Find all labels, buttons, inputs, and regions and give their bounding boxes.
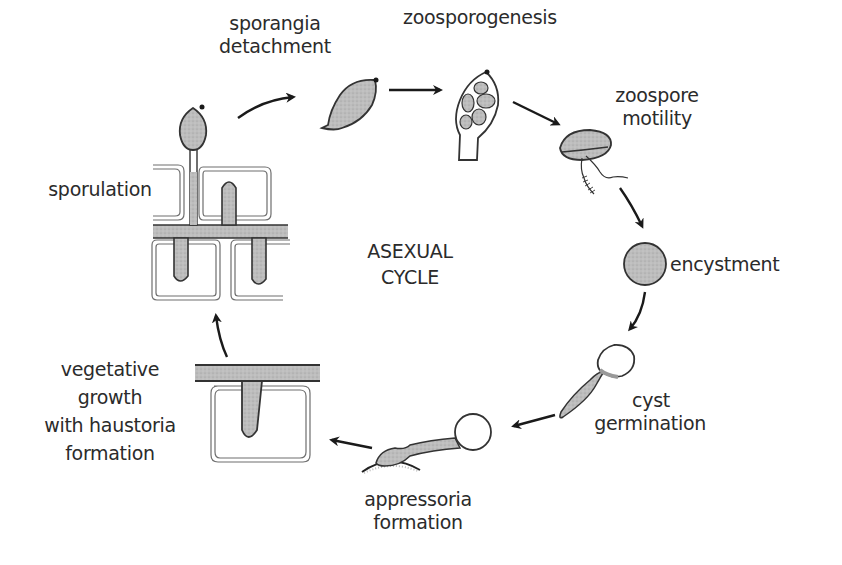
zoosporogenesis-illustration bbox=[456, 70, 498, 161]
center-title-line: ASEXUAL bbox=[340, 238, 480, 264]
label-encystment: encystment bbox=[670, 253, 810, 276]
label-zoospore-motility: zoospore motility bbox=[602, 84, 712, 130]
label-line: zoospore bbox=[602, 84, 712, 107]
center-title-asexual-cycle: ASEXUAL CYCLE bbox=[340, 238, 480, 290]
arrow-germination-to-appressoria bbox=[514, 415, 555, 426]
haustorium-illustration bbox=[195, 365, 320, 462]
label-sporangia-detachment: sporangia detachment bbox=[210, 12, 340, 58]
label-sporulation: sporulation bbox=[30, 178, 170, 201]
label-cyst-germination: cyst germination bbox=[566, 389, 706, 435]
detached-sporangium-illustration bbox=[322, 78, 379, 130]
label-line: sporangia bbox=[210, 12, 340, 35]
appressorium-illustration bbox=[362, 414, 491, 473]
arrow-encystment-to-germination bbox=[630, 292, 645, 329]
label-line: with haustoria bbox=[25, 411, 195, 439]
label-line: cyst bbox=[566, 389, 706, 412]
label-line: motility bbox=[602, 107, 712, 130]
label-line: formation bbox=[25, 439, 195, 467]
label-line: formation bbox=[348, 511, 488, 534]
label-line: sporulation bbox=[30, 178, 170, 201]
label-vegetative-growth: vegetative growth with haustoria formati… bbox=[25, 355, 195, 467]
label-line: vegetative bbox=[25, 355, 195, 383]
zoospore-illustration bbox=[560, 130, 628, 194]
arrow-motility-to-encystment bbox=[620, 188, 642, 226]
label-line: detachment bbox=[210, 35, 340, 58]
label-line: appressoria bbox=[348, 488, 488, 511]
label-line: zoosporogenesis bbox=[395, 6, 565, 29]
label-line: growth bbox=[25, 383, 195, 411]
cyst-illustration bbox=[624, 243, 666, 285]
arrow-vegetative-to-sporulation bbox=[216, 316, 227, 357]
label-line: encystment bbox=[670, 253, 810, 276]
label-zoosporogenesis: zoosporogenesis bbox=[395, 6, 565, 29]
sporulation-illustration bbox=[152, 105, 290, 301]
arrow-zoosporogenesis-to-motility bbox=[513, 102, 558, 124]
label-appressoria-formation: appressoria formation bbox=[348, 488, 488, 534]
center-title-line: CYCLE bbox=[340, 264, 480, 290]
arrow-sporulation-to-detachment bbox=[238, 97, 293, 118]
arrow-appressoria-to-vegetative bbox=[332, 440, 372, 448]
label-line: germination bbox=[566, 412, 706, 435]
asexual-cycle-diagram: sporangia detachment zoosporogenesis zoo… bbox=[0, 0, 842, 565]
